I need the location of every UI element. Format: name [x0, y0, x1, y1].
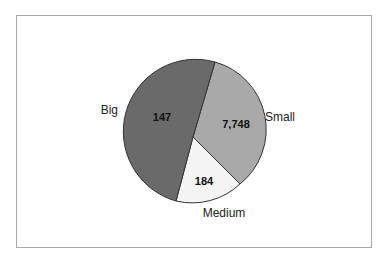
pie-chart: 147 7,748 184 Big Small Medium	[0, 0, 383, 258]
label-small: Small	[265, 110, 295, 124]
label-small-value: 7,748	[222, 118, 250, 130]
label-big: Big	[101, 103, 118, 117]
label-medium: Medium	[203, 206, 246, 220]
label-medium-value: 184	[195, 175, 214, 187]
label-big-value: 147	[153, 111, 171, 123]
